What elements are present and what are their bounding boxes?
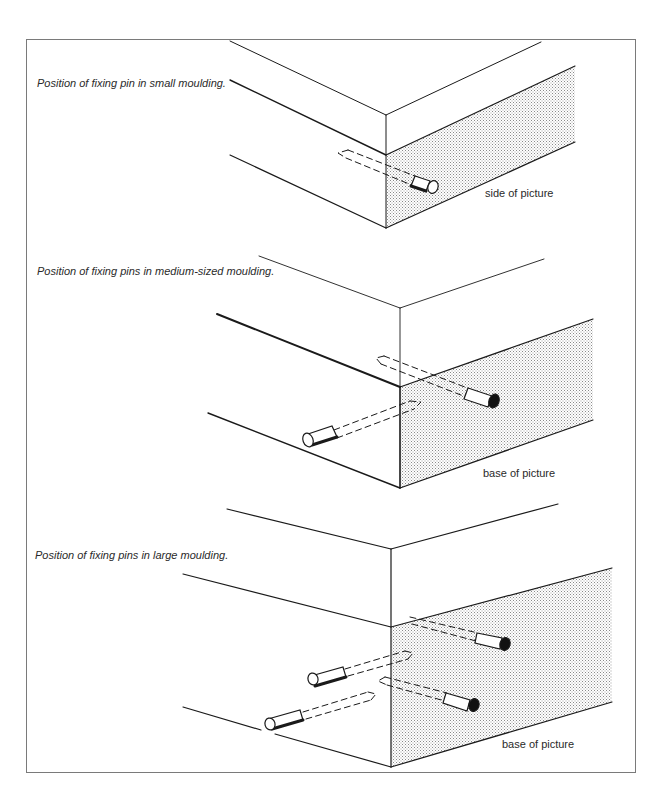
label-side-of-picture: side of picture bbox=[485, 187, 553, 199]
caption-small-moulding: Position of fixing pin in small moulding… bbox=[37, 77, 226, 89]
large-moulding-diagram bbox=[183, 504, 612, 767]
fixing-pin bbox=[301, 426, 337, 448]
fixing-pin bbox=[307, 667, 346, 686]
caption-medium-moulding: Position of fixing pins in medium-sized … bbox=[37, 265, 274, 277]
fixing-pin bbox=[264, 710, 303, 731]
label-base-of-picture: base of picture bbox=[502, 738, 574, 750]
side-face-shading bbox=[386, 66, 575, 228]
medium-moulding-diagram bbox=[208, 256, 593, 488]
label-base-of-picture: base of picture bbox=[483, 467, 555, 479]
caption-large-moulding: Position of fixing pins in large mouldin… bbox=[35, 549, 228, 561]
small-moulding-diagram bbox=[230, 41, 575, 228]
pin-hidden-outline bbox=[303, 692, 376, 719]
moulding-illustrations bbox=[0, 0, 663, 804]
